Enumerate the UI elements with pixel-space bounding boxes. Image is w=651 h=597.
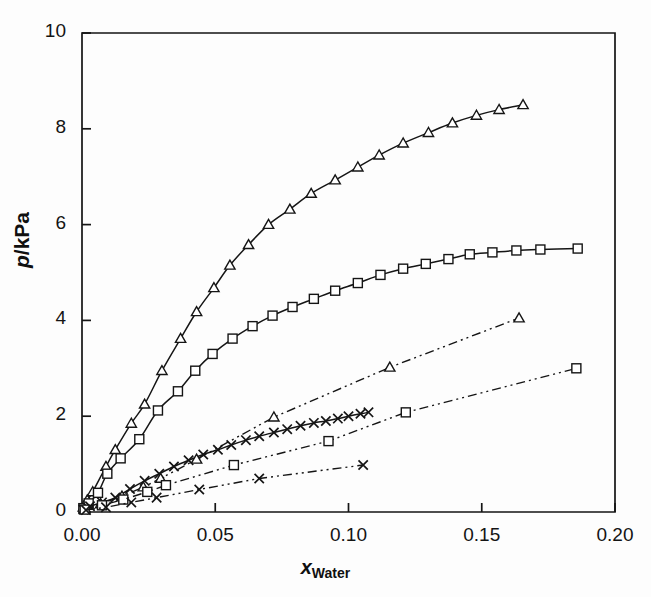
marker-triangle-upper-triangle-solid-10 bbox=[209, 283, 219, 292]
marker-triangle-upper-triangle-solid-17 bbox=[353, 162, 363, 171]
marker-square-upper-square-solid-6 bbox=[153, 406, 162, 415]
x-axis-label-subscript: Water bbox=[312, 565, 350, 581]
marker-triangle-upper-triangle-solid-24 bbox=[518, 100, 528, 109]
marker-cross-middle-cross-solid-4 bbox=[125, 484, 134, 493]
marker-cross-lower-cross-dashdot-4 bbox=[195, 485, 204, 494]
marker-square-upper-square-solid-10 bbox=[228, 334, 237, 343]
marker-triangle-upper-triangle-solid-18 bbox=[374, 150, 384, 159]
x-tick-label-1: 0.05 bbox=[170, 524, 260, 546]
series-line-lower-triangle-dashdot bbox=[85, 318, 519, 509]
x-axis-label: xWater bbox=[0, 556, 651, 579]
marker-triangle-upper-triangle-solid-19 bbox=[398, 138, 408, 147]
marker-square-upper-square-solid-12 bbox=[268, 311, 277, 320]
marker-triangle-upper-triangle-solid-20 bbox=[423, 127, 433, 136]
y-tick-label-0: 0 bbox=[4, 499, 66, 521]
marker-cross-middle-cross-solid-13 bbox=[255, 432, 264, 441]
marker-square-upper-square-solid-5 bbox=[135, 435, 144, 444]
marker-triangle-lower-triangle-dashdot-7 bbox=[385, 362, 395, 371]
marker-square-upper-square-solid-4 bbox=[116, 454, 125, 463]
marker-triangle-upper-triangle-solid-8 bbox=[175, 333, 185, 342]
marker-square-upper-square-solid-16 bbox=[353, 279, 362, 288]
chart-figure: p/kPa xWater 0.000.050.100.150.200246810 bbox=[0, 0, 651, 597]
marker-square-upper-square-solid-11 bbox=[248, 322, 257, 331]
series-upper-square-solid bbox=[79, 244, 582, 513]
marker-square-upper-square-solid-24 bbox=[536, 245, 545, 254]
x-tick-label-2: 0.10 bbox=[304, 524, 394, 546]
marker-cross-middle-cross-solid-14 bbox=[269, 428, 278, 437]
marker-square-lower-square-dashdot-5 bbox=[229, 461, 238, 470]
plot-frame bbox=[82, 33, 615, 512]
marker-square-upper-square-solid-25 bbox=[573, 244, 582, 253]
marker-triangle-upper-triangle-solid-6 bbox=[139, 399, 149, 408]
marker-triangle-upper-triangle-solid-9 bbox=[191, 307, 201, 316]
y-axis-label-sep: / bbox=[10, 249, 33, 255]
x-tick-label-4: 0.20 bbox=[570, 524, 651, 546]
marker-square-lower-square-dashdot-6 bbox=[324, 437, 333, 446]
marker-triangle-upper-triangle-solid-5 bbox=[126, 418, 136, 427]
marker-square-upper-square-solid-15 bbox=[331, 286, 340, 295]
marker-square-lower-square-dashdot-7 bbox=[401, 408, 410, 417]
marker-square-upper-square-solid-14 bbox=[309, 294, 318, 303]
series-lower-square-dashdot bbox=[80, 364, 581, 514]
marker-square-upper-square-solid-20 bbox=[444, 255, 453, 264]
marker-triangle-lower-triangle-dashdot-8 bbox=[514, 313, 524, 322]
marker-square-upper-square-solid-13 bbox=[288, 302, 297, 311]
marker-cross-middle-cross-solid-15 bbox=[283, 424, 292, 433]
marker-square-upper-square-solid-19 bbox=[421, 259, 430, 268]
marker-cross-lower-cross-dashdot-3 bbox=[152, 493, 161, 502]
marker-square-upper-square-solid-21 bbox=[465, 250, 474, 259]
y-tick-label-4: 8 bbox=[4, 116, 66, 138]
y-axis-label: p/kPa bbox=[10, 180, 34, 300]
marker-square-lower-square-dashdot-2 bbox=[119, 495, 128, 504]
x-tick-label-0: 0.00 bbox=[37, 524, 127, 546]
marker-triangle-upper-triangle-solid-7 bbox=[157, 366, 167, 375]
x-axis-label-symbol: x bbox=[301, 556, 312, 578]
marker-square-upper-square-solid-2 bbox=[93, 488, 102, 497]
series-lower-cross-dashdot bbox=[81, 460, 367, 514]
y-axis-label-symbol: p bbox=[10, 255, 33, 268]
marker-triangle-upper-triangle-solid-4 bbox=[110, 445, 120, 454]
marker-square-upper-square-solid-9 bbox=[208, 349, 217, 358]
y-tick-label-5: 10 bbox=[4, 20, 66, 42]
marker-triangle-upper-triangle-solid-14 bbox=[285, 204, 295, 213]
marker-square-upper-square-solid-7 bbox=[173, 387, 182, 396]
y-tick-label-1: 2 bbox=[4, 403, 66, 425]
marker-triangle-lower-triangle-dashdot-6 bbox=[269, 412, 279, 421]
x-tick-label-3: 0.15 bbox=[437, 524, 527, 546]
y-tick-label-3: 6 bbox=[4, 212, 66, 234]
series-upper-triangle-solid bbox=[78, 100, 528, 511]
marker-triangle-upper-triangle-solid-16 bbox=[330, 175, 340, 184]
marker-square-upper-square-solid-18 bbox=[399, 264, 408, 273]
marker-square-upper-square-solid-23 bbox=[512, 246, 521, 255]
y-tick-label-2: 4 bbox=[4, 307, 66, 329]
marker-square-upper-square-solid-17 bbox=[376, 270, 385, 279]
plot-canvas bbox=[0, 0, 651, 597]
marker-triangle-upper-triangle-solid-15 bbox=[306, 188, 316, 197]
marker-square-upper-square-solid-3 bbox=[103, 469, 112, 478]
marker-cross-middle-cross-solid-12 bbox=[241, 435, 250, 444]
marker-square-lower-square-dashdot-3 bbox=[143, 487, 152, 496]
marker-square-lower-square-dashdot-8 bbox=[572, 364, 581, 373]
marker-square-upper-square-solid-8 bbox=[191, 366, 200, 375]
marker-square-lower-square-dashdot-4 bbox=[161, 481, 170, 490]
marker-square-upper-square-solid-22 bbox=[488, 248, 497, 257]
